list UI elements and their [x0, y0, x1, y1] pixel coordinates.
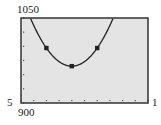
x-tick — [122, 100, 123, 101]
y-tick — [23, 88, 24, 89]
y-tick — [23, 60, 24, 61]
x-tick — [59, 100, 60, 101]
graph-screen — [0, 0, 161, 125]
data-point-marker — [44, 46, 48, 50]
x-tick — [97, 100, 98, 101]
y-tick — [23, 46, 24, 47]
x-tick — [109, 100, 110, 101]
x-tick — [33, 100, 34, 101]
y-tick — [23, 74, 24, 75]
plot-background — [21, 18, 148, 103]
x-tick — [71, 100, 72, 101]
x-tick — [46, 100, 47, 101]
y-tick — [23, 32, 24, 33]
x-tick — [84, 100, 85, 101]
x-tick — [135, 100, 136, 101]
data-point-marker — [70, 64, 74, 68]
data-point-marker — [95, 46, 99, 50]
